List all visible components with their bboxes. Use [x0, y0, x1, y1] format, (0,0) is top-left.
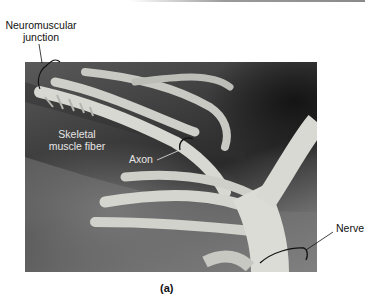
label-line-1: Skeletal	[47, 128, 107, 140]
panel-label: (a)	[160, 282, 173, 294]
skeletal-muscle-fiber-label: Skeletal muscle fiber	[47, 128, 107, 152]
axon-label: Axon	[129, 153, 153, 165]
nerve-label: Nerve	[336, 222, 364, 234]
neuromuscular-junction-label: Neuromuscular junction	[5, 19, 77, 43]
label-line-1: Neuromuscular	[5, 19, 77, 31]
nerve-illustration	[25, 62, 317, 272]
label-line-2: junction	[5, 31, 77, 43]
page-top-rule	[130, 0, 365, 2]
label-line-2: muscle fiber	[47, 140, 107, 152]
micrograph-image	[25, 62, 317, 272]
